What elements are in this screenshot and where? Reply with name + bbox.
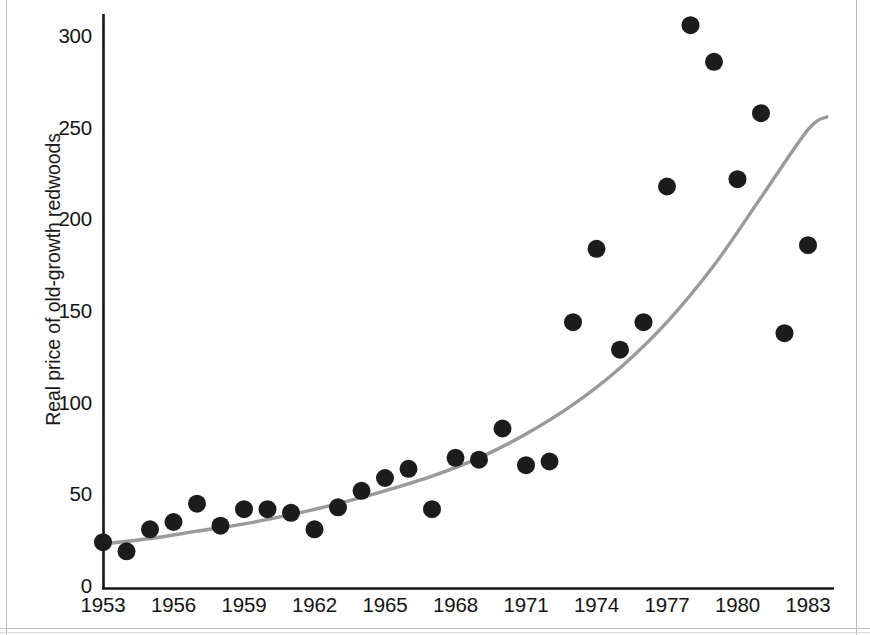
data-point: [517, 456, 535, 474]
data-point: [118, 542, 136, 560]
data-point: [588, 240, 606, 258]
data-point: [235, 500, 253, 518]
data-point: [212, 517, 230, 535]
data-point: [447, 449, 465, 467]
data-point: [188, 495, 206, 513]
data-point: [752, 104, 770, 122]
data-points: [94, 16, 817, 560]
data-point: [705, 53, 723, 71]
y-tick-label: 150: [22, 299, 92, 323]
fit-curve: [103, 117, 827, 544]
data-point: [564, 313, 582, 331]
data-point: [306, 520, 324, 538]
y-tick-label: 100: [22, 391, 92, 415]
data-point: [494, 420, 512, 438]
data-point: [400, 460, 418, 478]
data-point: [376, 469, 394, 487]
plot-area: [0, 0, 870, 635]
data-point: [423, 500, 441, 518]
data-point: [282, 504, 300, 522]
data-point: [729, 170, 747, 188]
data-point: [165, 513, 183, 531]
data-point: [776, 324, 794, 342]
data-point: [353, 482, 371, 500]
data-point: [329, 498, 347, 516]
fit-curve-path: [103, 117, 827, 544]
scatter-chart: Real price of old-growth redwoods 050100…: [0, 0, 870, 635]
data-point: [259, 500, 277, 518]
data-point: [94, 533, 112, 551]
y-tick-label: 300: [22, 24, 92, 48]
data-point: [658, 178, 676, 196]
y-tick-label: 50: [22, 482, 92, 506]
data-point: [635, 313, 653, 331]
data-point: [470, 451, 488, 469]
data-point: [682, 16, 700, 34]
data-point: [611, 341, 629, 359]
y-tick-label: 200: [22, 207, 92, 231]
data-point: [541, 453, 559, 471]
chart-page: Real price of old-growth redwoods 050100…: [0, 0, 870, 635]
data-point: [799, 236, 817, 254]
y-tick-label: 250: [22, 116, 92, 140]
x-tick-label: 1983: [763, 593, 853, 617]
data-point: [141, 520, 159, 538]
